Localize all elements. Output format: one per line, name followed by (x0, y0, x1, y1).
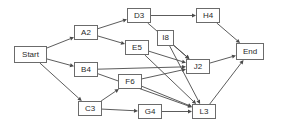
edge-c3-to-g4 (102, 109, 134, 111)
node-g4[interactable]: G4 (138, 104, 162, 119)
edge-a2-to-e5 (98, 36, 121, 43)
edge-a2-to-d3 (98, 21, 123, 29)
edge-start-to-b4 (47, 59, 70, 65)
node-start[interactable]: Start (14, 46, 47, 63)
node-label-end: End (243, 48, 257, 56)
node-end[interactable]: End (236, 43, 264, 60)
edge-start-to-a2 (47, 39, 70, 48)
node-label-d3: D3 (134, 12, 144, 20)
node-e5[interactable]: E5 (125, 40, 149, 55)
node-label-g4: G4 (145, 108, 156, 116)
diagram-canvas: StartA2B4C3D3E5F6G4I8H4J2L3End (0, 0, 285, 130)
edge-h4-to-end (217, 23, 237, 40)
edge-start-to-c3 (40, 63, 79, 98)
node-b4[interactable]: B4 (74, 62, 98, 77)
edge-i8-to-j2 (174, 45, 186, 56)
edge-j2-to-end (210, 57, 232, 63)
node-label-i8: I8 (162, 34, 169, 42)
node-i8[interactable]: I8 (157, 30, 174, 46)
node-a2[interactable]: A2 (74, 25, 98, 40)
node-label-f6: F6 (125, 78, 134, 86)
node-label-e5: E5 (132, 44, 142, 52)
node-c3[interactable]: C3 (78, 101, 102, 116)
node-label-b4: B4 (81, 66, 91, 74)
node-label-l3: L3 (200, 108, 209, 116)
node-d3[interactable]: D3 (127, 8, 151, 23)
arrowhead-c3-to-f6 (114, 89, 118, 93)
node-f6[interactable]: F6 (118, 74, 142, 89)
edge-c3-to-f6 (101, 91, 115, 101)
node-label-h4: H4 (203, 12, 213, 20)
edge-f6-to-l3 (142, 86, 188, 105)
node-label-c3: C3 (85, 105, 95, 113)
node-l3[interactable]: L3 (192, 104, 216, 119)
node-h4[interactable]: H4 (196, 8, 220, 23)
node-label-start: Start (22, 51, 39, 59)
node-label-a2: A2 (81, 29, 91, 37)
edge-l3-to-end (210, 63, 241, 104)
node-label-j2: J2 (194, 63, 202, 71)
node-j2[interactable]: J2 (186, 59, 210, 74)
edge-b4-to-j2 (98, 67, 182, 69)
